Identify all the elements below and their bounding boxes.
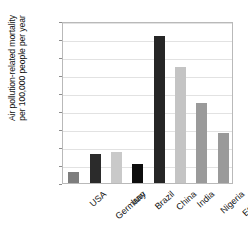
gridline (63, 41, 232, 42)
bar-brazil (132, 164, 143, 183)
gridline (63, 23, 232, 24)
y-axis-title-line-2: per 100,000 people per year (17, 15, 27, 120)
y-axis-title: Air pollution-related mortality per 100,… (4, 0, 30, 138)
bar-germany (90, 154, 101, 183)
bar-chart-figure: Air pollution-related mortality per 100,… (0, 0, 248, 244)
gridline (63, 95, 232, 96)
gridline (63, 77, 232, 78)
bar-ethiopia (218, 133, 229, 183)
bar-india (175, 67, 186, 183)
gridline (63, 59, 232, 60)
bar-iran (111, 152, 122, 184)
bar-usa (68, 172, 79, 183)
plot-area (62, 22, 233, 184)
x-tick-label-india: India (195, 189, 216, 210)
bar-china (154, 36, 165, 183)
y-tick-mark (59, 184, 62, 185)
x-tick-label-brazil: Brazil (153, 189, 176, 211)
x-tick-label-usa: USA (87, 189, 107, 209)
y-axis-title-line-1: Air pollution-related mortality (7, 15, 17, 121)
bar-nigeria (196, 103, 207, 183)
